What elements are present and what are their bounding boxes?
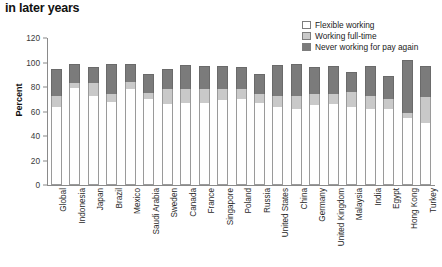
bar-segment-flexible-working [106, 102, 117, 185]
bar-segment-never-working [254, 74, 265, 95]
bar-segment-working-full-time [254, 94, 265, 103]
y-tick-mark [43, 185, 47, 186]
bar-segment-flexible-working [383, 109, 394, 185]
bar-segment-flexible-working [402, 118, 413, 185]
y-tick-label: 60 [18, 107, 40, 117]
bar-segment-flexible-working [309, 105, 320, 185]
bar-segment-never-working [236, 67, 247, 89]
y-tick-mark [43, 111, 47, 112]
x-tick-label: Japan [96, 188, 105, 210]
bar-segment-never-working [88, 67, 99, 83]
bar-stack [291, 64, 302, 185]
bar-stack [383, 76, 394, 185]
bar-segment-never-working [125, 64, 136, 82]
bar-segment-flexible-working [217, 100, 228, 185]
bar-segment-flexible-working [51, 107, 62, 185]
y-tick-label: 120 [18, 33, 40, 43]
bar-segment-working-full-time [272, 96, 283, 107]
bar-segment-flexible-working [254, 103, 265, 185]
bar-segment-working-full-time [51, 96, 62, 107]
bar-segment-never-working [365, 66, 376, 95]
y-tick-label: 20 [18, 156, 40, 166]
bar-segment-flexible-working [199, 103, 210, 185]
bar-segment-working-full-time [420, 97, 431, 123]
bar-stack [254, 74, 265, 185]
bar-segment-flexible-working [236, 99, 247, 185]
bar-segment-flexible-working [365, 109, 376, 185]
bar-segment-never-working [309, 67, 320, 94]
bar-segment-flexible-working [143, 99, 154, 185]
bar-segment-never-working [106, 64, 117, 95]
bar-segment-never-working [383, 76, 394, 99]
bar-segment-never-working [51, 69, 62, 96]
chart-title: in later years [5, 1, 79, 15]
bar-segment-working-full-time [106, 94, 117, 101]
bar-segment-flexible-working [69, 88, 80, 185]
bar-segment-never-working [402, 60, 413, 113]
bar-stack [236, 67, 247, 185]
y-tick-label: 100 [18, 58, 40, 68]
bar-segment-never-working [143, 74, 154, 94]
bar-segment-never-working [420, 66, 431, 97]
y-tick-mark [43, 38, 47, 39]
bar-segment-never-working [291, 64, 302, 96]
bar-segment-flexible-working [162, 104, 173, 185]
bar-segment-working-full-time [162, 89, 173, 104]
plot-area [47, 38, 435, 185]
bar-segment-never-working [328, 66, 339, 94]
bar-segment-flexible-working [88, 96, 99, 185]
bar-stack [162, 69, 173, 185]
x-tick-label: Russia [263, 188, 272, 213]
bar-segment-never-working [162, 69, 173, 90]
bar-segment-flexible-working [180, 103, 191, 185]
bar-segment-flexible-working [346, 107, 357, 185]
y-tick-label: 80 [18, 82, 40, 92]
bar-segment-working-full-time [346, 92, 357, 107]
y-tick-mark [43, 160, 47, 161]
x-tick-label: Brazil [115, 188, 124, 208]
bar-segment-flexible-working [272, 107, 283, 185]
bar-segment-working-full-time [180, 89, 191, 102]
bar-segment-working-full-time [88, 83, 99, 95]
bar-segment-flexible-working [420, 123, 431, 185]
x-tick-label: Poland [244, 188, 253, 214]
bar-stack [180, 65, 191, 185]
x-tick-label: Hong Kong [410, 188, 419, 229]
bar-segment-never-working [180, 65, 191, 90]
bar-stack [272, 65, 283, 185]
x-axis-line [47, 185, 435, 186]
x-tick-label: Saudi Arabia [152, 188, 161, 234]
bar-stack [51, 69, 62, 185]
bar-stack [365, 66, 376, 185]
bar-segment-working-full-time [328, 94, 339, 104]
y-tick-mark [43, 62, 47, 63]
x-tick-label: Egypt [392, 188, 401, 209]
y-tick-mark [43, 87, 47, 88]
bar-segment-never-working [69, 64, 80, 84]
x-tick-label: Mexico [133, 188, 142, 214]
bar-segment-flexible-working [291, 109, 302, 185]
x-tick-label: Turkey [429, 188, 438, 213]
legend-label-flexible: Flexible working [315, 21, 374, 30]
chart-container: in later years Flexible working Working … [0, 0, 442, 267]
x-tick-label: Indonesia [78, 188, 87, 224]
bar-stack [199, 66, 210, 185]
bar-segment-never-working [346, 72, 357, 92]
bar-segment-working-full-time [236, 89, 247, 99]
y-tick-label: 40 [18, 131, 40, 141]
x-tick-label: United States [281, 188, 290, 237]
bar-stack [125, 64, 136, 185]
bar-segment-working-full-time [125, 82, 136, 89]
bar-segment-never-working [217, 66, 228, 89]
bar-stack [106, 64, 117, 185]
bar-segment-never-working [199, 66, 210, 89]
bar-stack [346, 72, 357, 185]
x-tick-label: India [374, 188, 383, 206]
y-tick-label: 0 [18, 180, 40, 190]
bar-segment-working-full-time [217, 89, 228, 100]
bar-stack [420, 66, 431, 185]
x-tick-label: Canada [189, 188, 198, 217]
bar-stack [217, 66, 228, 185]
x-tick-label: Malaysia [355, 188, 364, 220]
legend-swatch-flexible [302, 21, 311, 29]
